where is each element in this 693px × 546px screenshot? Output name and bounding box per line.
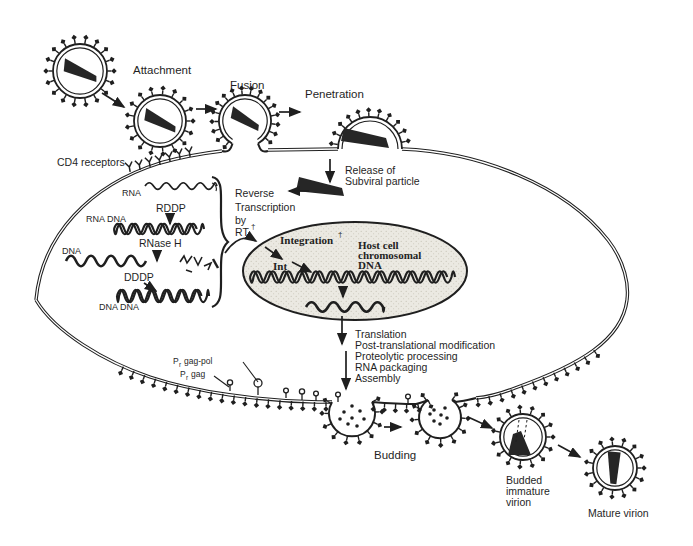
- label-reverse-1: Reverse: [235, 187, 274, 199]
- label-assembly: Assembly: [355, 372, 401, 384]
- label-rddp: RDDP: [156, 202, 186, 214]
- label-host-3: DNA: [358, 259, 382, 271]
- label-cd4-receptors: CD4 receptors: [57, 156, 125, 168]
- label-gagpol: gag-pol: [184, 356, 212, 366]
- fusion-site: [209, 85, 280, 151]
- label-dna: DNA: [62, 246, 81, 256]
- label-rna: RNA: [122, 188, 141, 198]
- label-int: Int: [273, 260, 287, 272]
- label-reverse-4: RT: [235, 226, 249, 238]
- arrow-to-mature: [558, 445, 580, 457]
- label-fusion: Fusion: [230, 79, 265, 91]
- label-rna-dna: RNA DNA: [86, 214, 126, 224]
- label-dna-dna: DNA DNA: [99, 302, 139, 312]
- label-prgag-sub: r: [186, 374, 189, 381]
- penetration-site: [329, 107, 411, 149]
- label-budding: Budding: [374, 449, 416, 461]
- subviral-particle-core: [296, 177, 344, 196]
- gag-pointer-line: [214, 376, 229, 387]
- retrovirus-lifecycle-figure: Attachment Fusion Penetration CD4 recept…: [0, 0, 693, 546]
- reverse-transcription-brace: [212, 177, 228, 307]
- degraded-rna-fragments: [180, 256, 218, 272]
- label-rt-dagger: †: [251, 222, 255, 231]
- label-release-2: Subviral particle: [345, 175, 420, 187]
- label-budded-3: virion: [506, 496, 531, 508]
- label-attachment: Attachment: [133, 64, 192, 76]
- arrow-to-attachment: [102, 93, 124, 107]
- label-prgagpol-sub: r: [179, 361, 182, 368]
- label-reverse-2: Transcription: [235, 201, 295, 213]
- label-dddp: DDDP: [124, 271, 154, 283]
- label-reverse-3: by: [235, 214, 247, 226]
- arrow-to-immature: [468, 417, 492, 428]
- gagpol-pointer-line: [243, 362, 258, 382]
- label-gag: gag: [191, 369, 205, 379]
- diagram-canvas: Attachment Fusion Penetration CD4 recept…: [0, 0, 693, 546]
- arrow-to-nucleus: [225, 238, 256, 253]
- label-penetration: Penetration: [305, 88, 364, 100]
- label-rnase-h: RNase H: [139, 237, 182, 249]
- label-integration: Integration: [280, 234, 333, 246]
- cd4-receptor-icons: [125, 147, 194, 173]
- label-integration-dagger: †: [338, 230, 342, 239]
- label-mature-virion: Mature virion: [588, 507, 649, 519]
